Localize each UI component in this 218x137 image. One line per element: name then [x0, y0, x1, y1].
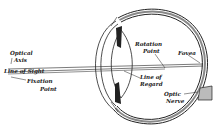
label-regard-2: Regard [139, 81, 163, 88]
label-line-of-sight: Line of Sight [3, 68, 45, 75]
label-optical-axis-2: Axis [13, 57, 28, 63]
eye-section-diagram: Optical Axis Line of Sight Fixation Poin… [0, 0, 218, 137]
iris [115, 26, 122, 104]
label-optic-2: Nerve [165, 98, 185, 104]
cornea [95, 21, 118, 110]
label-fixation-1: Fixation [26, 78, 53, 84]
optic-nerve [198, 86, 212, 100]
label-optic-1: Optic [164, 91, 181, 98]
label-optical-axis-1: Optical [10, 50, 33, 57]
label-regard-1: Line of [139, 74, 163, 81]
label-rotation-1: Rotation [134, 41, 162, 47]
label-fixation-2: Point [39, 86, 57, 92]
label-rotation-2: Point [142, 48, 160, 54]
lens [111, 30, 132, 98]
label-fovea: Fovea [177, 50, 196, 56]
